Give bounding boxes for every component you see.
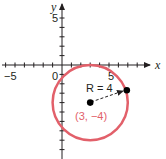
center-label: (3, −4): [75, 110, 107, 122]
center-point: [87, 99, 94, 106]
x-tick-label-neg5: −5: [4, 70, 17, 82]
y-tick-label-5: 5: [52, 12, 58, 24]
diagram-canvas: x y −5 0 5 5 R = 4 (3, −4): [0, 0, 166, 159]
x-tick-label-0: 0: [52, 70, 58, 82]
x-axis-label: x: [154, 58, 161, 72]
coordinate-plane-diagram: x y −5 0 5 5 R = 4 (3, −4): [0, 0, 166, 159]
radius-label: R = 4: [86, 82, 113, 94]
circle-point: [124, 87, 131, 94]
